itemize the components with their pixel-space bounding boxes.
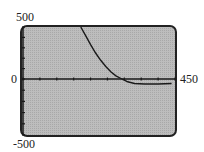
calculator-graph-screen bbox=[0, 0, 204, 152]
screen-frame bbox=[21, 26, 176, 136]
